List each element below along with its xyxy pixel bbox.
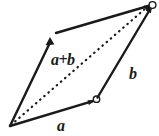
label-vector-b: b (129, 66, 137, 82)
label-vector-a: a (57, 118, 65, 134)
vector-figure: a+b b a (0, 0, 159, 136)
sum-tip-circle-marker (149, 2, 156, 9)
label-a-plus-b: a+b (51, 52, 75, 68)
